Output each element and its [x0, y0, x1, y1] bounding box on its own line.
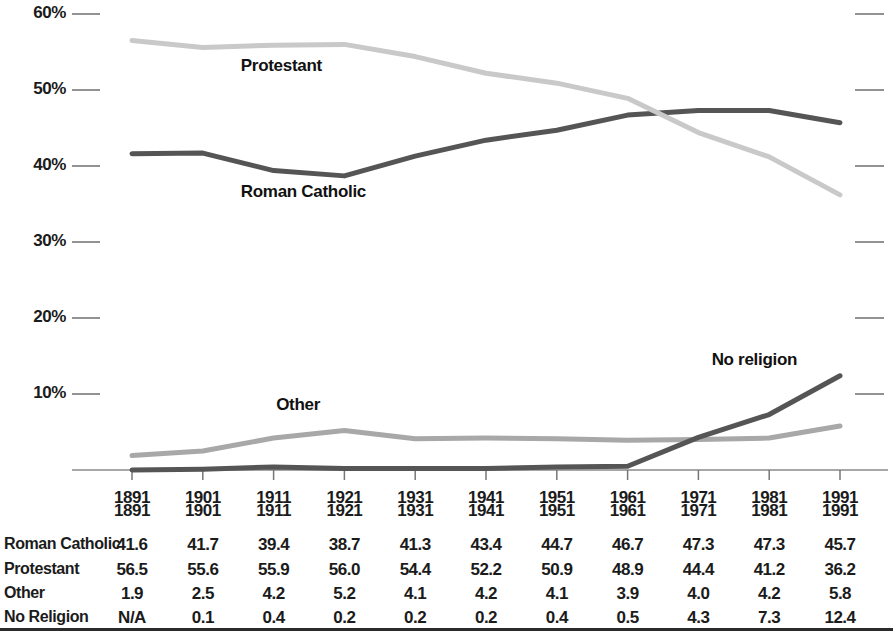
table-bottom-rule — [0, 628, 893, 631]
table-header-year: 1931 — [375, 501, 455, 521]
table-cell: 39.4 — [234, 535, 314, 555]
table-cell: 0.2 — [446, 608, 526, 628]
table-cell: 43.4 — [446, 535, 526, 555]
table-cell: 41.2 — [729, 560, 809, 580]
y-axis-tick-label: 10% — [0, 383, 66, 403]
table-header-year: 1981 — [729, 501, 809, 521]
y-axis-tick-label: 20% — [0, 307, 66, 327]
table-cell: 44.7 — [517, 535, 597, 555]
y-axis-tick-label: 40% — [0, 155, 66, 175]
y-axis-tick-label: 60% — [0, 3, 66, 23]
table-cell: N/A — [92, 608, 172, 628]
table-cell: 55.9 — [234, 560, 314, 580]
series-annotation-other: Other — [276, 395, 320, 415]
table-cell: 2.5 — [163, 584, 243, 604]
table-cell: 41.7 — [163, 535, 243, 555]
table-header-year: 1891 — [92, 501, 172, 521]
table-cell: 5.8 — [800, 584, 880, 604]
table-row-label: Other — [4, 584, 45, 602]
table-header-year: 1911 — [234, 501, 314, 521]
table-cell: 45.7 — [800, 535, 880, 555]
table-cell: 5.2 — [304, 584, 384, 604]
table-cell: 7.3 — [729, 608, 809, 628]
series-annotation-protestant: Protestant — [241, 56, 322, 76]
religion-trend-line-chart — [0, 0, 893, 480]
table-cell: 38.7 — [304, 535, 384, 555]
table-header-year: 1951 — [517, 501, 597, 521]
table-header-year: 1971 — [658, 501, 738, 521]
y-axis-tick-label: 30% — [0, 231, 66, 251]
table-header-year: 1921 — [304, 501, 384, 521]
table-cell: 36.2 — [800, 560, 880, 580]
table-cell: 0.5 — [588, 608, 668, 628]
table-cell: 44.4 — [658, 560, 738, 580]
table-cell: 12.4 — [800, 608, 880, 628]
table-header-year: 1901 — [163, 501, 243, 521]
series-line-other — [132, 426, 840, 456]
table-cell: 0.1 — [163, 608, 243, 628]
table-cell: 1.9 — [92, 584, 172, 604]
table-cell: 55.6 — [163, 560, 243, 580]
table-cell: 4.1 — [375, 584, 455, 604]
table-cell: 4.1 — [517, 584, 597, 604]
table-cell: 4.0 — [658, 584, 738, 604]
table-cell: 4.2 — [234, 584, 314, 604]
table-cell: 4.2 — [729, 584, 809, 604]
table-cell: 0.4 — [517, 608, 597, 628]
table-cell: 4.2 — [446, 584, 526, 604]
y-axis-tick-label: 50% — [0, 79, 66, 99]
table-header-year: 1991 — [800, 501, 880, 521]
table-cell: 47.3 — [729, 535, 809, 555]
table-cell: 50.9 — [517, 560, 597, 580]
series-line-no-religion — [132, 376, 840, 470]
table-row-label: No Religion — [4, 608, 88, 626]
table-header-year: 1961 — [588, 501, 668, 521]
table-cell: 0.2 — [304, 608, 384, 628]
table-cell: 3.9 — [588, 584, 668, 604]
table-cell: 48.9 — [588, 560, 668, 580]
table-cell: 52.2 — [446, 560, 526, 580]
table-cell: 4.3 — [658, 608, 738, 628]
table-cell: 0.2 — [375, 608, 455, 628]
table-cell: 56.5 — [92, 560, 172, 580]
series-annotation-roman-catholic: Roman Catholic — [241, 182, 366, 202]
table-cell: 56.0 — [304, 560, 384, 580]
table-cell: 0.4 — [234, 608, 314, 628]
data-table: 1891190119111921193119411951196119711981… — [0, 498, 893, 642]
table-cell: 46.7 — [588, 535, 668, 555]
table-cell: 41.3 — [375, 535, 455, 555]
series-line-protestant — [132, 41, 840, 195]
table-row-label: Protestant — [4, 560, 79, 578]
chart-plot-area: 60%50%40%30%20%10%1891190119111921193119… — [0, 0, 893, 480]
series-annotation-no-religion: No religion — [712, 350, 797, 370]
table-header-year: 1941 — [446, 501, 526, 521]
table-cell: 47.3 — [658, 535, 738, 555]
table-cell: 41.6 — [92, 535, 172, 555]
table-cell: 54.4 — [375, 560, 455, 580]
